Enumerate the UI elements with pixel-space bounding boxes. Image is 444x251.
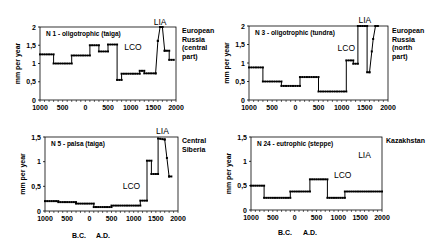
- data-point: [350, 191, 352, 193]
- data-point: [309, 191, 311, 193]
- data-point: [263, 185, 265, 187]
- data-point: [311, 178, 313, 180]
- data-point: [289, 197, 291, 199]
- data-point: [324, 178, 326, 180]
- x-tick-label: 1500: [352, 214, 368, 221]
- data-point: [340, 197, 342, 199]
- data-point: [379, 191, 381, 193]
- y-tick-label: 1: [243, 158, 247, 165]
- data-point: [278, 197, 280, 199]
- data-point: [294, 191, 296, 193]
- data-point: [331, 197, 333, 199]
- data-point: [274, 197, 276, 199]
- plot-frame: [251, 137, 382, 210]
- data-point: [344, 197, 346, 199]
- data-point: [318, 178, 320, 180]
- data-point: [252, 185, 254, 187]
- data-point: [302, 191, 304, 193]
- data-point: [374, 191, 376, 193]
- data-point: [250, 185, 252, 187]
- data-point: [377, 191, 379, 193]
- y-tick-label: 0: [243, 207, 247, 214]
- data-point: [326, 178, 328, 180]
- data-point: [283, 197, 285, 199]
- data-point: [287, 197, 289, 199]
- data-point: [257, 185, 259, 187]
- data-point: [320, 178, 322, 180]
- data-point: [344, 191, 346, 193]
- data-point: [270, 197, 272, 199]
- data-point: [357, 191, 359, 193]
- data-point: [337, 197, 339, 199]
- y-tick-label: 0,5: [237, 182, 247, 190]
- data-point: [307, 191, 309, 193]
- data-point: [335, 197, 337, 199]
- x-tick-label: 1000: [243, 214, 259, 221]
- ad-label: A.D.: [303, 229, 317, 237]
- data-point: [342, 197, 344, 199]
- data-point: [364, 191, 366, 193]
- data-point: [263, 197, 265, 199]
- data-point: [326, 197, 328, 199]
- data-point: [281, 197, 283, 199]
- data-point: [267, 197, 269, 199]
- data-point: [366, 191, 368, 193]
- data-line: [251, 179, 382, 198]
- data-point: [313, 178, 315, 180]
- data-point: [368, 191, 370, 193]
- data-point: [381, 191, 383, 193]
- chart-n24: 00,511,510005000500100015002000mm per ye…: [0, 0, 444, 251]
- x-tick-label: 0: [293, 214, 297, 221]
- data-point: [372, 191, 374, 193]
- data-point: [316, 178, 318, 180]
- data-point: [285, 197, 287, 199]
- data-point: [353, 191, 355, 193]
- data-point: [261, 185, 263, 187]
- data-point: [322, 178, 324, 180]
- data-point: [276, 197, 278, 199]
- data-point: [259, 185, 261, 187]
- data-point: [346, 191, 348, 193]
- chart-n24-plot: 00,511,510005000500100015002000mm per ye…: [0, 0, 444, 251]
- data-point: [272, 197, 274, 199]
- data-point: [309, 178, 311, 180]
- x-tick-label: 2000: [374, 214, 390, 221]
- data-point: [254, 185, 256, 187]
- data-point: [265, 197, 267, 199]
- data-point: [333, 197, 335, 199]
- y-tick-label: 1,5: [237, 134, 247, 142]
- data-point: [296, 191, 298, 193]
- x-tick-label: 500: [311, 214, 323, 221]
- data-point: [370, 191, 372, 193]
- annotation-lco: LCO: [334, 170, 352, 180]
- data-markers: [250, 178, 383, 198]
- data-point: [329, 197, 331, 199]
- data-point: [305, 191, 307, 193]
- x-tick-label: 500: [267, 214, 279, 221]
- data-point: [300, 191, 302, 193]
- x-tick-label: 1000: [331, 214, 347, 221]
- region-label: Kazakhstan: [386, 137, 425, 146]
- data-point: [291, 191, 293, 193]
- data-point: [359, 191, 361, 193]
- annotation-lia: LIA: [358, 150, 371, 160]
- data-point: [348, 191, 350, 193]
- data-point: [289, 191, 291, 193]
- y-axis-label: mm per year: [225, 152, 233, 194]
- data-point: [298, 191, 300, 193]
- data-point: [355, 191, 357, 193]
- bc-label: B.C.: [278, 229, 292, 237]
- data-point: [361, 191, 363, 193]
- chart-title: N 24 - eutrophic (steppe): [257, 140, 333, 148]
